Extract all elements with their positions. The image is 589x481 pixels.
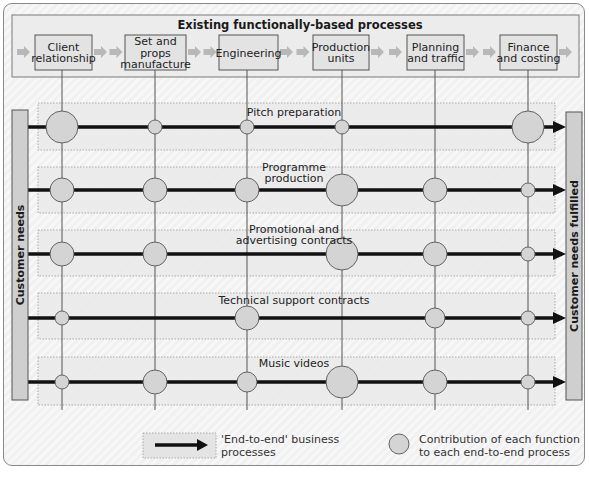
contribution-circle [143,242,167,266]
arrowhead-icon [553,248,566,260]
contribution-circle [423,178,447,202]
contribution-circle [50,178,74,202]
contribution-circle [521,375,535,389]
contribution-circle [240,120,254,134]
function-box: Set andpropsmanufacture [120,35,191,71]
arrowhead-icon [553,376,566,388]
process-label: Technical support contracts [217,294,369,307]
legend-arrow-label-2: processes [221,446,276,459]
process-label: Pitch preparation [247,106,341,119]
contribution-circle [143,178,167,202]
contribution-circle [521,311,535,325]
arrowhead-icon [553,121,566,133]
contribution-circle [50,242,74,266]
contribution-circle [235,178,259,202]
contribution-circle [46,111,78,143]
contribution-circle [55,311,69,325]
contribution-circle [521,247,535,261]
contribution-circle [423,242,447,266]
function-box: Clientrelationship [31,35,96,70]
header-title: Existing functionally-based processes [177,18,422,32]
legend-arrow-label-1: 'End-to-end' business [221,433,340,446]
function-label: and traffic [407,52,463,65]
legend-circle-label-1: Contribution of each function [419,433,580,446]
contribution-circle [326,366,358,398]
contribution-circle [326,174,358,206]
arrowhead-icon [553,312,566,324]
function-label: units [327,52,354,65]
function-box: Engineering [216,35,282,70]
contribution-circle [143,370,167,394]
function-label: manufacture [120,58,191,71]
contribution-circle [235,306,259,330]
contribution-circle [55,375,69,389]
process-label: production [264,172,323,185]
process-label: advertising contracts [236,234,353,247]
legend-circle-icon [389,434,409,454]
legend: 'End-to-end' business processes Contribu… [143,433,580,459]
legend-circle-label-2: to each end-to-end process [419,446,570,459]
process-matrix-diagram: Existing functionally-based processes Cl… [0,0,589,481]
function-label: and costing [496,52,560,65]
function-label: Engineering [216,47,282,60]
customer-needs-label: Customer needs [14,204,27,305]
function-label: relationship [31,52,96,65]
function-box: Productionunits [312,35,371,70]
process-label: Music videos [259,357,330,370]
arrowhead-icon [553,184,566,196]
function-box: Planningand traffic [407,35,464,70]
function-box: Financeand costing [496,35,560,70]
contribution-circle [237,372,257,392]
contribution-circle [335,120,349,134]
customer-needs-fulfilled-label: Customer needs fulfilled [568,180,581,332]
contribution-circle [521,183,535,197]
contribution-circle [425,308,445,328]
contribution-circle [423,370,447,394]
contribution-circle [148,120,162,134]
contribution-circle [512,111,544,143]
